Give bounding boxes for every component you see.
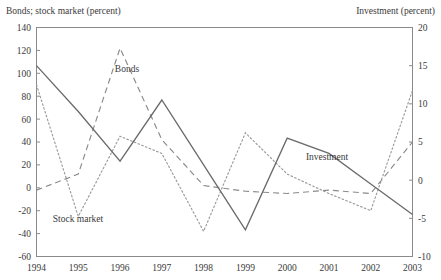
- right-axis-title: Investment (percent): [356, 6, 435, 17]
- chart-container: Bonds; stock market (percent) Investment…: [0, 0, 441, 280]
- left-tick-label: 0: [26, 183, 31, 193]
- right-tick-label: 15: [418, 61, 428, 71]
- x-axis-year-label: 1995: [69, 263, 88, 273]
- right-tick-label: 10: [418, 99, 428, 109]
- left-tick-label: 60: [22, 115, 32, 125]
- right-tick-label: -10: [418, 252, 431, 262]
- right-tick-label: 20: [418, 23, 428, 33]
- x-axis-year-label: 2001: [319, 263, 338, 273]
- left-axis-title: Bonds; stock market (percent): [6, 6, 121, 17]
- series-line-investment: [37, 66, 413, 230]
- left-tick-label: 140: [17, 23, 32, 33]
- left-tick-label: 80: [22, 92, 32, 102]
- right-tick-label: 5: [418, 137, 423, 147]
- right-tick-label: -5: [418, 214, 426, 224]
- x-axis-year-label: 1999: [236, 263, 255, 273]
- x-axis-year-label: 2000: [278, 263, 297, 273]
- series-line-stock-market: [37, 85, 413, 232]
- x-axis-year-label: 1997: [152, 263, 171, 273]
- x-axis-year-label: 2002: [361, 263, 380, 273]
- series-annotation-label: Investment: [306, 152, 349, 162]
- series-annotation-label: Stock market: [53, 214, 104, 224]
- series-line-bonds: [37, 48, 413, 193]
- left-tick-label: 40: [22, 137, 32, 147]
- left-tick-label: 100: [17, 69, 32, 79]
- left-tick-label: -60: [18, 252, 31, 262]
- left-tick-label: 120: [17, 46, 32, 56]
- line-chart: Bonds; stock market (percent) Investment…: [0, 0, 441, 280]
- left-tick-label: -20: [18, 206, 31, 216]
- x-axis-year-labels: 1994199519961997199819992000200120022003: [27, 263, 422, 273]
- x-axis-year-label: 2003: [403, 263, 422, 273]
- left-tick-label: 20: [22, 160, 32, 170]
- x-axis-year-label: 1998: [194, 263, 213, 273]
- x-axis-year-label: 1994: [27, 263, 46, 273]
- left-tick-label: -40: [18, 229, 31, 239]
- x-axis-year-label: 1996: [111, 263, 130, 273]
- right-tick-label: 0: [418, 176, 423, 186]
- series-annotation-label: Bonds: [115, 64, 140, 74]
